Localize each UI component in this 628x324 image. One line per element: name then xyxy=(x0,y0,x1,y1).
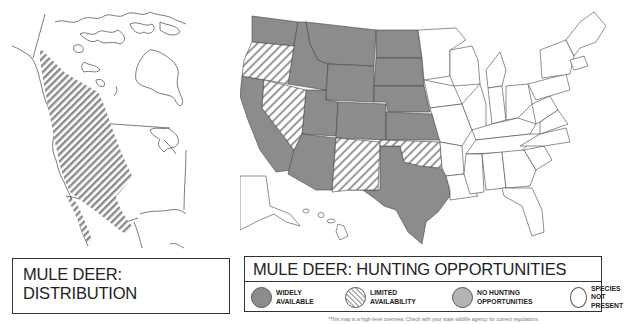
legend-item-species-not-present: SPECIES NOT PRESENT xyxy=(570,285,628,311)
state-co xyxy=(336,102,386,140)
legend-label-line2: AVAILABLE xyxy=(276,298,314,307)
species-not-present-swatch-icon xyxy=(570,287,587,308)
state-nm xyxy=(332,138,380,192)
widely-available-swatch-icon xyxy=(251,287,272,308)
hunting-opportunities-map xyxy=(240,0,615,250)
legend-item-widely-available: WIDELY AVAILABLE xyxy=(251,287,321,308)
distribution-title-line1: MULE DEER: xyxy=(23,265,219,284)
legend: WIDELY AVAILABLE LIMITED AVAILABILITY NO… xyxy=(245,282,601,313)
no-hunting-swatch-icon xyxy=(452,287,473,308)
footnote: *This map is a high-level overview. Chec… xyxy=(328,316,539,322)
state-sd xyxy=(374,58,424,86)
distribution-title-line2: DISTRIBUTION xyxy=(23,284,219,303)
state-nd xyxy=(376,30,422,58)
legend-label-line2: AVAILABILITY xyxy=(370,298,416,307)
legend-item-no-hunting: NO HUNTING OPPORTUNITIES xyxy=(452,287,542,308)
state-ks xyxy=(386,112,440,140)
distribution-title-box: MULE DEER: DISTRIBUTION xyxy=(12,258,230,314)
limited-availability-swatch-icon xyxy=(345,287,366,308)
legend-label-line1: SPECIES NOT xyxy=(591,285,627,302)
state-wa xyxy=(252,16,298,46)
state-wy xyxy=(326,64,374,102)
legend-label-line2: OPPORTUNITIES xyxy=(477,298,533,307)
legend-label-line2: PRESENT xyxy=(591,302,627,311)
distribution-map xyxy=(0,0,240,250)
legend-item-limited-availability: LIMITED AVAILABILITY xyxy=(345,287,424,308)
hunting-title: MULE DEER: HUNTING OPPORTUNITIES xyxy=(245,257,601,282)
hunting-legend-box: MULE DEER: HUNTING OPPORTUNITIES WIDELY … xyxy=(244,256,602,312)
